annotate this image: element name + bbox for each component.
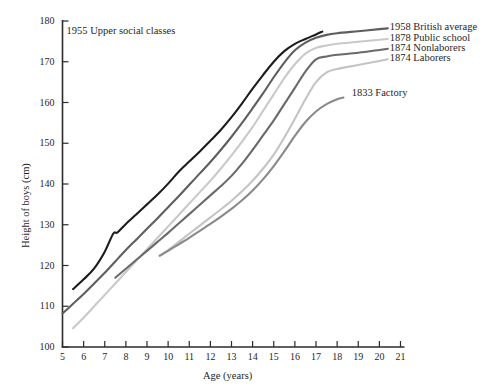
x-tick-label-7: 7: [96, 351, 114, 362]
y-tick-label-140: 140: [29, 178, 55, 189]
height-vs-age-line-chart: 100110120130140150160170180 567891011121…: [0, 0, 489, 392]
x-tick-label-9: 9: [138, 351, 156, 362]
x-tick-label-16: 16: [286, 351, 304, 362]
x-tick-label-19: 19: [349, 351, 367, 362]
x-tick-label-5: 5: [54, 351, 72, 362]
x-tick-label-13: 13: [223, 351, 241, 362]
x-tick-label-17: 17: [307, 351, 325, 362]
x-axis-title: Age (years): [203, 370, 252, 381]
y-tick-label-120: 120: [29, 260, 55, 271]
series-label-4: 1874 Laborers: [390, 52, 451, 63]
x-tick-label-6: 6: [75, 351, 93, 362]
y-tick-label-110: 110: [29, 300, 55, 311]
series-line-5: [160, 98, 344, 256]
series-label-0: 1955 Upper social classes: [67, 25, 176, 36]
x-tick-label-15: 15: [265, 351, 283, 362]
series-line-0: [73, 32, 322, 290]
series-label-3: 1874 Nonlaborers: [390, 42, 466, 53]
axis-ticks: [63, 21, 401, 347]
y-axis-title: Height of boys (cm): [20, 163, 31, 248]
y-tick-label-170: 170: [29, 56, 55, 67]
axis-lines: [62, 20, 405, 347]
x-tick-label-20: 20: [370, 351, 388, 362]
x-tick-label-12: 12: [201, 351, 219, 362]
data-series-lines: [63, 28, 388, 328]
x-tick-label-11: 11: [180, 351, 198, 362]
y-tick-label-100: 100: [29, 341, 55, 352]
y-tick-label-160: 160: [29, 97, 55, 108]
y-tick-label-180: 180: [29, 15, 55, 26]
y-tick-label-150: 150: [29, 137, 55, 148]
x-tick-label-21: 21: [392, 351, 410, 362]
series-line-3: [115, 49, 388, 278]
series-line-2: [73, 39, 388, 328]
y-tick-label-130: 130: [29, 219, 55, 230]
x-tick-label-18: 18: [328, 351, 346, 362]
x-tick-label-8: 8: [117, 351, 135, 362]
x-tick-label-10: 10: [159, 351, 177, 362]
series-label-5: 1833 Factory: [352, 87, 408, 98]
series-label-1: 1958 British average: [390, 21, 477, 32]
series-line-1: [63, 28, 388, 313]
x-tick-label-14: 14: [244, 351, 262, 362]
